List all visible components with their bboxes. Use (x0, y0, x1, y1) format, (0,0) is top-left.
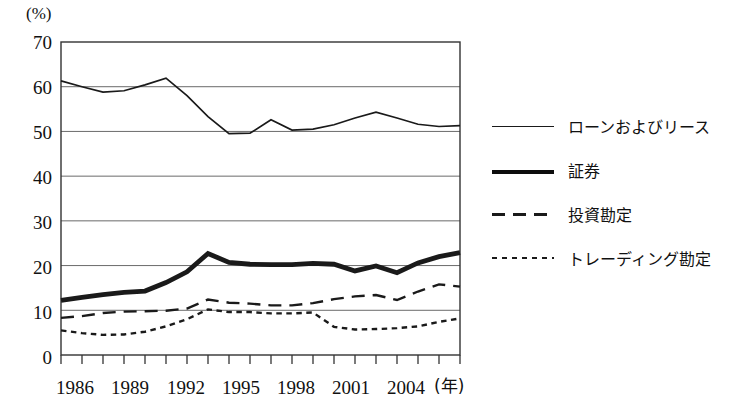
legend-item-trading-account: トレーディング勘定 (492, 236, 732, 280)
chart-legend: ローンおよびリース 証券 投資勘定 トレーディング勘定 (492, 104, 732, 280)
legend-key-solid-thin-icon (492, 119, 554, 133)
legend-label-investment-account: 投資勘定 (568, 202, 632, 226)
legend-label-loans-leases: ローンおよびリース (568, 114, 710, 138)
series-line-trading-account (61, 309, 460, 334)
legend-item-investment-account: 投資勘定 (492, 192, 732, 236)
legend-item-securities: 証券 (492, 148, 732, 192)
legend-key-solid-thick-icon (492, 163, 554, 177)
legend-key-dashed-icon (492, 207, 554, 221)
legend-item-loans-leases: ローンおよびリース (492, 104, 732, 148)
legend-label-securities: 証券 (568, 158, 600, 182)
legend-label-trading-account: トレーディング勘定 (568, 246, 711, 270)
series-line-securities (61, 253, 460, 301)
plot-frame (61, 42, 460, 355)
chart-container: (%) 70 60 50 40 30 20 10 0 1986 1989 199… (0, 0, 732, 411)
legend-key-dotted-icon (492, 251, 554, 265)
